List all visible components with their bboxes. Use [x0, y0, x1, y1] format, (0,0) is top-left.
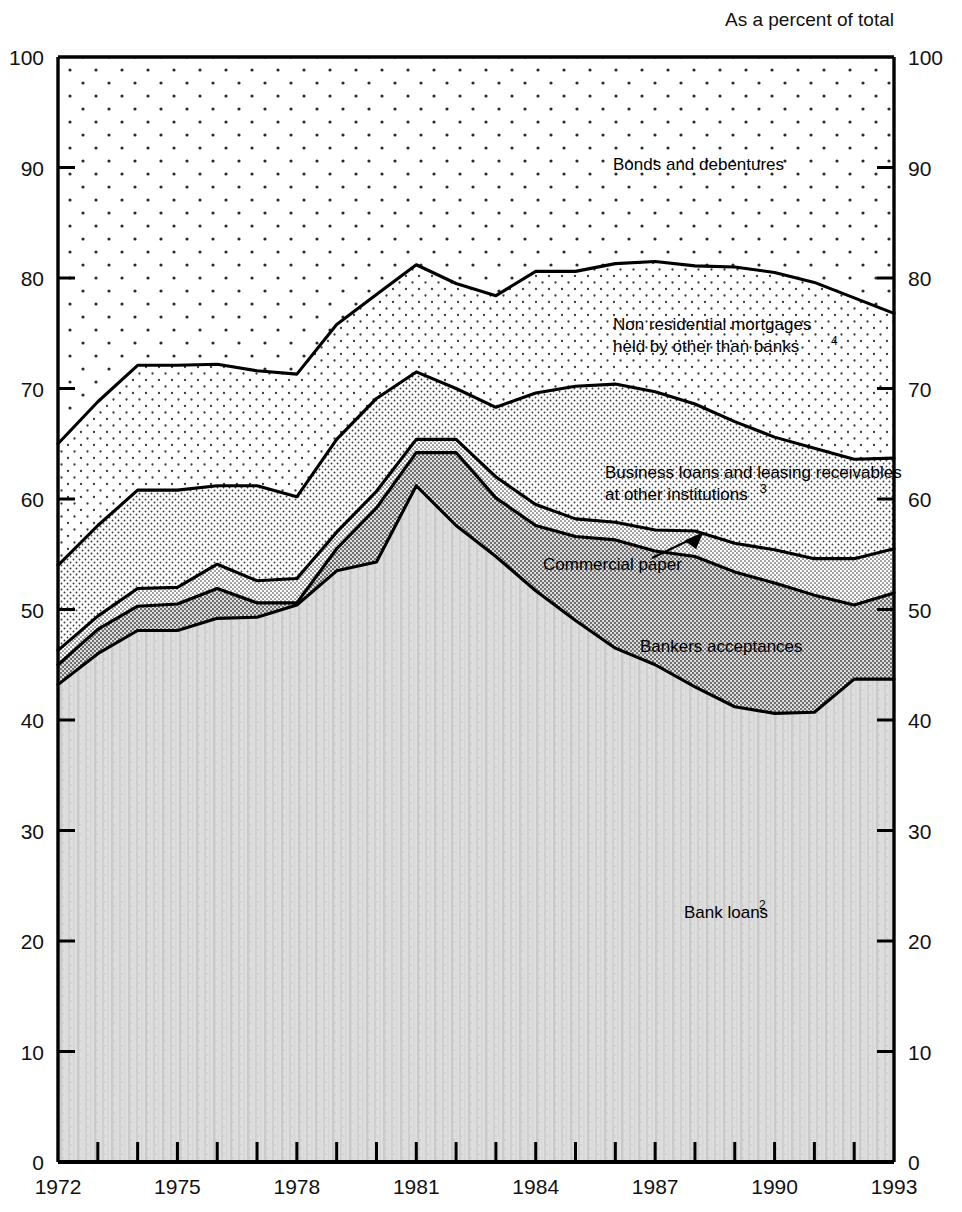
y-axis-right-tick-label: 0	[908, 1151, 920, 1174]
label-bank-loans: Bank loans	[684, 903, 768, 922]
chart-root: 0102030405060708090100 01020304050607080…	[0, 0, 962, 1212]
y-axis-right-tick-label: 90	[908, 157, 931, 180]
y-axis-left-tick-label: 20	[21, 930, 44, 953]
label-bank-loans-superscript: 2	[759, 898, 766, 912]
label-bonds-and-debentures: Bonds and debentures	[613, 155, 784, 174]
x-axis-tick-label: 1972	[35, 1175, 82, 1198]
y-axis-right-tick-label: 100	[908, 46, 943, 69]
y-axis-right-tick-label: 60	[908, 488, 931, 511]
y-axis-left-tick-label: 100	[9, 46, 44, 69]
y-axis-left-tick-label: 80	[21, 267, 44, 290]
x-axis-tick-label: 1978	[273, 1175, 320, 1198]
x-axis-tick-label: 1975	[154, 1175, 201, 1198]
x-axis-tick-label: 1993	[871, 1175, 918, 1198]
label-bankers-acceptances: Bankers acceptances	[640, 637, 803, 656]
y-axis-left-tick-label: 10	[21, 1041, 44, 1064]
label-non-residential-mortgages-superscript: 4	[831, 334, 838, 348]
x-axis-labels: 19721975197819811984198719901993	[35, 1175, 918, 1198]
y-axis-right-tick-label: 40	[908, 709, 931, 732]
y-axis-right-tick-label: 80	[908, 267, 931, 290]
y-axis-right-tick-label: 10	[908, 1041, 931, 1064]
y-axis-right-tick-label: 70	[908, 378, 931, 401]
label-business-loans-superscript: 3	[760, 482, 767, 496]
plot-areas	[58, 57, 894, 1162]
y-axis-left-tick-label: 90	[21, 157, 44, 180]
unit-note: As a percent of total	[725, 9, 894, 30]
y-axis-left-tick-label: 0	[32, 1151, 44, 1174]
x-axis-tick-label: 1984	[512, 1175, 559, 1198]
label-business-loans-line2: at other institutions	[605, 485, 748, 504]
y-axis-left-tick-label: 50	[21, 599, 44, 622]
label-non-residential-mortgages-line2: held by other than banks	[613, 337, 799, 356]
x-axis-tick-label: 1990	[751, 1175, 798, 1198]
y-axis-left-tick-label: 30	[21, 820, 44, 843]
x-axis-tick-label: 1987	[632, 1175, 679, 1198]
y-axis-right-tick-label: 50	[908, 599, 931, 622]
y-axis-left-tick-label: 60	[21, 488, 44, 511]
y-axis-left-labels: 0102030405060708090100	[9, 46, 44, 1174]
y-axis-left-tick-label: 70	[21, 378, 44, 401]
x-axis-tick-label: 1981	[393, 1175, 440, 1198]
y-axis-right-tick-label: 20	[908, 930, 931, 953]
y-axis-right-labels: 0102030405060708090100	[908, 46, 943, 1174]
label-business-loans-line1: Business loans and leasing receivables	[605, 463, 902, 482]
y-axis-right-tick-label: 30	[908, 820, 931, 843]
label-non-residential-mortgages-line1: Non residential mortgages	[613, 315, 811, 334]
stacked-area-chart: 0102030405060708090100 01020304050607080…	[0, 0, 962, 1212]
y-axis-left-tick-label: 40	[21, 709, 44, 732]
label-commercial-paper: Commercial paper	[543, 555, 682, 574]
